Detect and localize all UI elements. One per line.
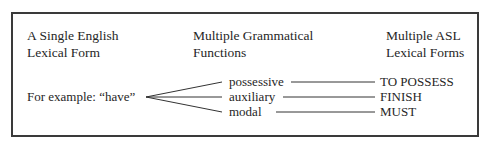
asl-must: MUST: [380, 104, 416, 120]
asl-finish: FINISH: [380, 89, 422, 105]
branch-line-modal: [146, 97, 222, 112]
function-auxiliary: auxiliary: [229, 89, 275, 105]
function-modal: modal: [229, 104, 262, 120]
asl-to-possess: TO POSSESS: [380, 74, 454, 90]
branch-line-possessive: [146, 82, 222, 97]
function-possessive: possessive: [229, 74, 284, 90]
